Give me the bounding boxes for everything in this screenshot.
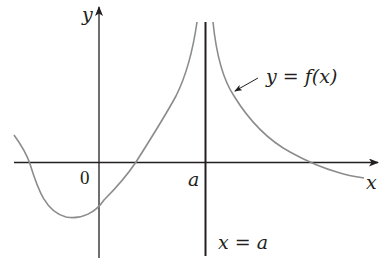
curve-pointer-arrow: [235, 78, 258, 91]
asymptote-label: x = a: [218, 231, 268, 253]
origin-label: 0: [80, 167, 90, 188]
curve-label: y = f(x): [265, 65, 337, 87]
curve-right-branch: [213, 22, 364, 178]
y-axis-label: y: [81, 3, 93, 25]
curve-left-branch: [14, 22, 197, 218]
graph-canvas: y x 0 a y = f(x) x = a: [0, 0, 386, 269]
tick-label-a: a: [188, 168, 199, 190]
x-axis-label: x: [366, 171, 377, 193]
